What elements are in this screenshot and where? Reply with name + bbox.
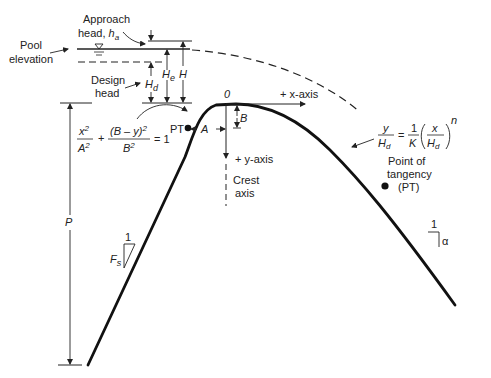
fs-one-label: 1 [125,231,131,243]
alpha-one-label: 1 [431,218,437,230]
hd-label: Hd [145,78,159,93]
fs-slope-triangle [124,244,135,268]
ellipse-pointer-arrow [137,105,187,119]
pt-right-label-3: (PT) [398,181,419,193]
svg-text:n: n [451,114,457,126]
pool-label-1: Pool [20,39,42,51]
pt-right-label-1: Point of [388,155,426,167]
crest-axis-label-1: Crest [233,174,259,186]
svg-text:+: + [98,132,104,144]
svg-text:y: y [382,122,390,134]
svg-text:= 1: = 1 [154,133,170,145]
ellipse-equation: x2 A2 + (B – y)2 B2 = 1 [77,124,170,154]
power-law-pointer-arrow [352,139,374,147]
fs-label: Fs [110,253,122,268]
h-label: H [179,68,187,80]
svg-text:B2: B2 [123,141,135,154]
spillway-profile [88,104,455,365]
pt-left-dot [185,125,192,132]
spillway-diagram: Approach head, ha Pool elevation Design … [0,0,491,378]
svg-text:A2: A2 [77,141,90,154]
svg-text:1: 1 [411,122,417,134]
pt-right-dot [381,182,388,189]
x-axis-label: + x-axis [280,88,319,100]
design-head-pointer-arrow [125,83,140,88]
approach-head-pointer-arrow [123,32,145,44]
approach-head-label-2: head, ha [78,27,120,42]
svg-text:K: K [409,137,417,149]
design-head-label-1: Design [91,74,125,86]
a-label: A [200,123,208,135]
b-label: B [240,112,247,124]
svg-text:Hd: Hd [427,137,440,151]
pt-right-label-2: tangency [387,168,432,180]
svg-text:x2: x2 [78,124,90,137]
origin-label: 0 [224,88,231,100]
svg-text:(B – y)2: (B – y)2 [110,124,147,137]
pt-left-label: PT [170,123,184,135]
approach-head-label-1: Approach [83,13,130,25]
he-label: He [162,68,175,83]
pool-label-2: elevation [9,53,53,65]
nappe-dashed-curve [192,50,360,112]
y-axis-label: + y-axis [235,153,274,165]
crest-axis-label-2: axis [235,187,255,199]
svg-text:=: = [398,129,404,141]
alpha-label: α [442,235,449,247]
p-label: P [65,216,73,228]
svg-text:Hd: Hd [378,137,391,151]
design-head-label-2: head [95,87,119,99]
alpha-slope-triangle [428,232,439,247]
svg-text:x: x [431,122,438,134]
power-law-equation: y Hd = 1 K x Hd n [378,114,457,151]
